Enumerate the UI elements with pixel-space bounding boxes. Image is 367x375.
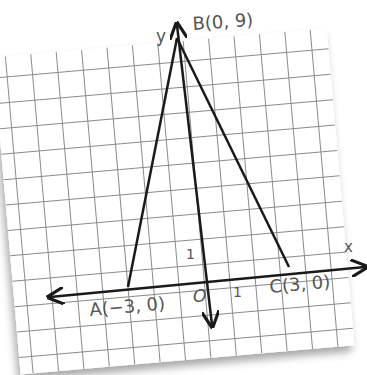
x-axis-label: x	[344, 238, 353, 256]
unit-x-label: 1	[233, 284, 242, 300]
point-b-label: B(0, 9)	[192, 9, 254, 34]
unit-y-label: 1	[186, 246, 195, 262]
origin-label: O	[193, 286, 206, 306]
y-axis-label: y	[156, 26, 166, 46]
graph-paper-diagram: y B(0, 9) x 1 A(−3, 0) O 1 C(3, 0)	[0, 0, 367, 375]
